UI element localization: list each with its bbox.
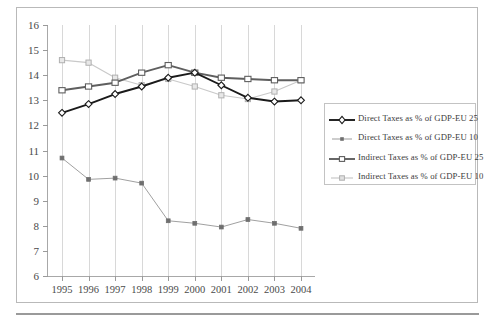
x-axis-tick — [248, 276, 249, 281]
data-point-marker — [219, 93, 224, 98]
x-axis-tick — [301, 276, 302, 281]
legend-key-indirect-eu25-icon — [329, 151, 355, 163]
data-point-marker — [59, 109, 66, 116]
x-axis-tick — [89, 276, 90, 281]
plot-area: 6789101112131415161995199619971998199920… — [47, 25, 315, 277]
legend-item: Indirect Taxes as % of GDP-EU 25 — [329, 147, 472, 167]
legend-item: Indirect Taxes as % of GDP-EU 10 — [329, 167, 472, 187]
data-point-marker — [112, 91, 119, 98]
y-axis-tick — [43, 276, 48, 277]
data-point-marker — [245, 76, 251, 81]
data-point-marker — [139, 70, 145, 75]
bottom-rule — [16, 313, 479, 315]
x-axis-tick — [195, 276, 196, 281]
data-point-marker — [298, 78, 304, 83]
chart-screenshot: 6789101112131415161995199619971998199920… — [0, 0, 495, 324]
x-axis-tick — [62, 276, 63, 281]
legend-item: Direct Taxes as % of GDP-EU 25 — [329, 108, 472, 128]
x-axis-label: 1998 — [131, 285, 152, 296]
legend-label-indirect-eu10: Indirect Taxes as % of GDP-EU 10 — [358, 171, 483, 181]
data-point-marker — [140, 181, 144, 185]
x-axis-label: 2004 — [291, 285, 312, 296]
y-axis-label: 15 — [28, 45, 39, 56]
x-axis-label: 2003 — [264, 285, 285, 296]
data-point-marker — [165, 63, 171, 68]
y-axis-label: 10 — [28, 170, 39, 181]
data-point-marker — [85, 101, 92, 108]
x-axis-label: 2000 — [184, 285, 205, 296]
data-point-marker — [113, 176, 117, 180]
series-line — [62, 158, 301, 228]
x-axis-label: 2001 — [211, 285, 232, 296]
x-axis-tick — [115, 276, 116, 281]
chart-legend: Direct Taxes as % of GDP-EU 25 Direct Ta… — [324, 103, 476, 185]
x-axis-label: 2002 — [237, 285, 258, 296]
data-point-marker — [273, 221, 277, 225]
data-point-marker — [272, 89, 277, 94]
y-axis-label: 16 — [28, 20, 39, 31]
data-point-marker — [86, 60, 91, 65]
series-layer — [48, 25, 315, 276]
legend-label-indirect-eu25: Indirect Taxes as % of GDP-EU 25 — [358, 152, 483, 162]
data-point-marker — [85, 84, 91, 89]
data-point-marker — [60, 156, 64, 160]
y-axis-label: 13 — [28, 95, 39, 106]
x-axis-label: 1996 — [78, 285, 99, 296]
y-axis-label: 8 — [34, 220, 40, 231]
data-point-marker — [218, 82, 225, 89]
series-line — [62, 73, 301, 113]
data-point-marker — [218, 75, 224, 80]
legend-label-direct-eu10: Direct Taxes as % of GDP-EU 10 — [358, 132, 478, 142]
data-point-marker — [219, 225, 223, 229]
x-axis-tick — [221, 276, 222, 281]
x-axis-label: 1995 — [52, 285, 73, 296]
data-point-marker — [298, 97, 305, 104]
data-point-marker — [166, 219, 170, 223]
y-axis-label: 11 — [28, 145, 39, 156]
x-axis-tick — [168, 276, 169, 281]
data-point-marker — [87, 177, 91, 181]
data-point-marker — [299, 226, 303, 230]
data-series — [60, 156, 303, 230]
y-axis-label: 14 — [28, 70, 39, 81]
data-point-marker — [271, 98, 278, 105]
data-point-marker — [193, 221, 197, 225]
legend-item: Direct Taxes as % of GDP-EU 10 — [329, 128, 472, 148]
legend-label-direct-eu25: Direct Taxes as % of GDP-EU 25 — [358, 113, 478, 123]
data-point-marker — [112, 80, 118, 85]
y-axis-label: 7 — [34, 245, 40, 256]
legend-key-direct-eu10-icon — [329, 131, 355, 143]
y-axis-label: 6 — [34, 271, 40, 282]
data-series — [59, 69, 305, 116]
x-axis-tick — [274, 276, 275, 281]
data-point-marker — [59, 58, 64, 63]
data-point-marker — [246, 218, 250, 222]
data-point-marker — [59, 88, 65, 93]
legend-key-indirect-eu10-icon — [329, 170, 355, 182]
legend-key-direct-eu25-icon — [329, 112, 355, 124]
x-axis-label: 1997 — [105, 285, 126, 296]
series-line — [62, 65, 301, 90]
data-point-marker — [192, 84, 197, 89]
x-axis-tick — [142, 276, 143, 281]
x-axis-label: 1999 — [158, 285, 179, 296]
y-axis-label: 9 — [34, 195, 40, 206]
data-point-marker — [113, 75, 118, 80]
data-point-marker — [271, 78, 277, 83]
y-axis-label: 12 — [28, 120, 39, 131]
